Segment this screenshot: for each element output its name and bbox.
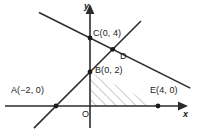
point-dot-d (110, 47, 115, 52)
point-dot-b (88, 70, 93, 75)
point-label-e: E(4, 0) (150, 86, 178, 95)
x-axis-label: x (183, 110, 188, 119)
shaded-triangle-boe (90, 72, 158, 106)
point-label-b: B(0, 2) (95, 66, 123, 75)
point-label-d: D (120, 52, 127, 61)
y-axis-label: y (84, 2, 89, 11)
point-label-c: C(0, 4) (93, 29, 121, 38)
point-dot-a (54, 104, 59, 109)
origin-label: O (82, 110, 89, 119)
point-dot-e (156, 104, 161, 109)
point-dot-c (88, 36, 93, 41)
coordinate-geometry-figure: C(0, 4) D B(0, 2) A(−2, 0) E(4, 0) y x O (0, 0, 197, 136)
point-label-a: A(−2, 0) (11, 86, 44, 95)
